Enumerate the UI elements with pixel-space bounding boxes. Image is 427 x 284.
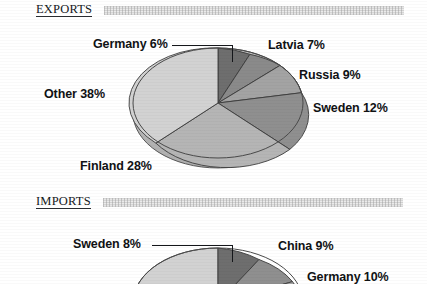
chart-imports: Sweden 8% China 9% Germany 10% (0, 214, 427, 284)
imports-label-germany: Germany 10% (307, 270, 389, 284)
imports-slice-other (133, 248, 218, 284)
exports-label-finland: Finland 28% (80, 159, 152, 173)
chart-exports: Germany 6% Latvia 7% Russia 9% Sweden 12… (0, 0, 427, 175)
exports-leader-line-germany-vertical (232, 45, 233, 62)
exports-label-latvia: Latvia 7% (268, 38, 325, 52)
imports-label-china: China 9% (278, 239, 333, 253)
exports-leader-line-germany-horizontal (172, 45, 233, 46)
section-rule-imports (103, 198, 403, 207)
imports-label-sweden: Sweden 8% (73, 237, 141, 251)
section-title-imports: IMPORTS (36, 195, 91, 209)
exports-label-sweden: Sweden 12% (313, 101, 388, 115)
document-page: EXPORTS (0, 0, 427, 284)
exports-label-germany: Germany 6% (93, 37, 168, 51)
exports-label-other: Other 38% (44, 87, 105, 101)
imports-leader-line-sweden-vertical (232, 245, 233, 262)
section-header-imports: IMPORTS (36, 194, 408, 210)
imports-leader-line-sweden-horizontal (152, 245, 233, 246)
exports-label-russia: Russia 9% (299, 68, 361, 82)
